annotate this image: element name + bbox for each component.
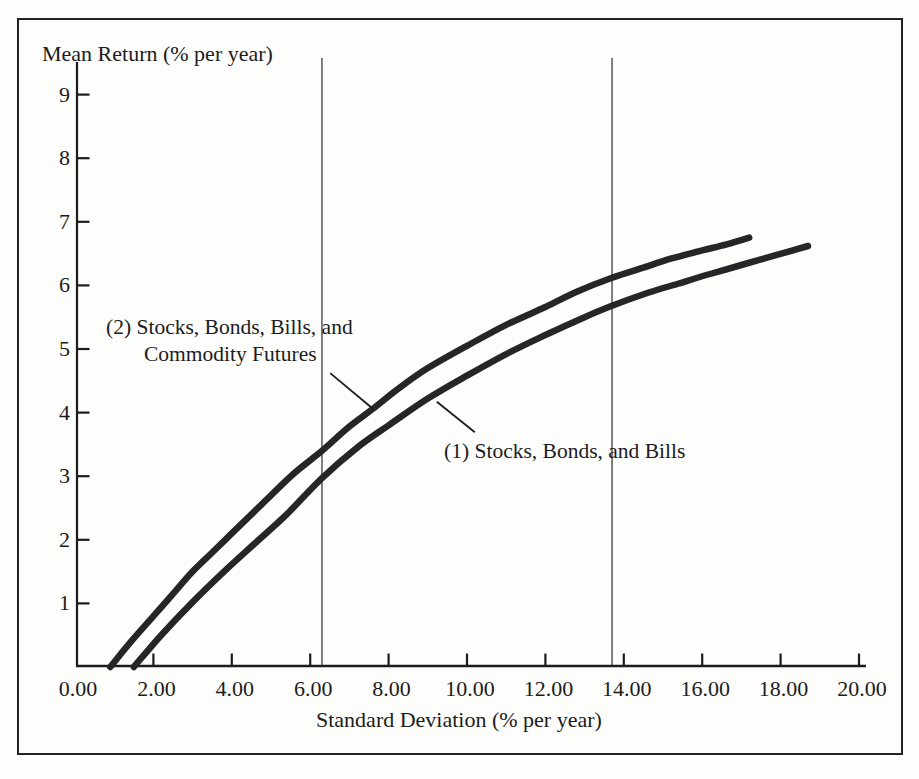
x-tick-label-0.00: 0.00 [40, 676, 116, 702]
y-tick-label-6: 6 [28, 272, 70, 298]
y-tick-label-3: 3 [28, 463, 70, 489]
x-tick-label-20.00: 20.00 [824, 676, 900, 702]
y-tick-label-5: 5 [28, 336, 70, 362]
efficient-frontier-figure: Mean Return (% per year) Standard Deviat… [0, 0, 919, 779]
x-tick-label-12.00: 12.00 [510, 676, 586, 702]
series-2-annotation: (2) Stocks, Bonds, Bills, and Commodity … [106, 314, 353, 368]
y-tick-label-8: 8 [28, 145, 70, 171]
x-tick-label-10.00: 10.00 [432, 676, 508, 702]
x-tick-label-16.00: 16.00 [667, 676, 743, 702]
series-1-annotation: (1) Stocks, Bonds, and Bills [444, 438, 685, 465]
y-axis-title: Mean Return (% per year) [42, 41, 273, 67]
x-axis-title: Standard Deviation (% per year) [316, 707, 602, 733]
series-1-label-leader-line [437, 402, 475, 433]
series-2-label-leader-line [330, 373, 373, 409]
x-tick-label-14.00: 14.00 [589, 676, 665, 702]
y-tick-label-4: 4 [28, 400, 70, 426]
series-1-annotation-line-1: (1) Stocks, Bonds, and Bills [444, 438, 685, 465]
y-tick-label-9: 9 [28, 82, 70, 108]
y-tick-label-2: 2 [28, 527, 70, 553]
x-tick-label-18.00: 18.00 [746, 676, 822, 702]
y-tick-label-1: 1 [28, 590, 70, 616]
x-tick-label-4.00: 4.00 [197, 676, 273, 702]
y-tick-label-7: 7 [28, 209, 70, 235]
chart-plot-area [0, 0, 919, 779]
series-2-annotation-line-2: Commodity Futures [144, 341, 353, 368]
x-tick-label-8.00: 8.00 [354, 676, 430, 702]
x-tick-label-6.00: 6.00 [275, 676, 351, 702]
series-2-annotation-line-1: (2) Stocks, Bonds, Bills, and [106, 314, 353, 341]
x-tick-label-2.00: 2.00 [118, 676, 194, 702]
